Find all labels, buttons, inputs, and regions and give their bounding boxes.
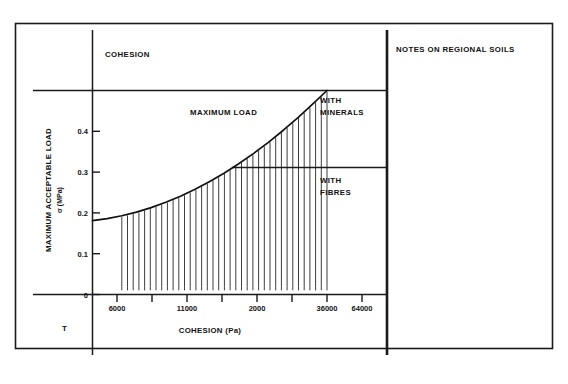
y-tick-label-1: 0.1 <box>78 250 88 259</box>
notes-panel-heading: NOTES ON REGIONAL SOILS <box>396 45 515 54</box>
x-axis-title: COHESION (Pa) <box>179 326 241 335</box>
soil-load-cohesion-figure: 0 0.1 0.2 0.3 0.4 6000 11000 2000 36000 … <box>0 0 568 384</box>
y-axis-title: MAXIMUM ACCEPTABLE LOAD <box>44 128 53 252</box>
band-label-fibres-line2: FIBRES <box>320 188 351 197</box>
page-background <box>0 0 568 384</box>
y-axis-units: σ (MPa) <box>56 187 64 213</box>
chart-heading-cohesion: COHESION <box>105 50 150 59</box>
y-tick-label-2: 0.2 <box>78 209 88 218</box>
band-label-minerals-line2: MINERALS <box>320 108 364 117</box>
band-label-minerals-line1: WITH <box>320 96 342 105</box>
x-tick-label-3: 36000 <box>317 304 338 313</box>
figure-page: 0 0.1 0.2 0.3 0.4 6000 11000 2000 36000 … <box>0 0 568 384</box>
x-tick-label-4: 64000 <box>352 304 373 313</box>
y-tick-label-4: 0.4 <box>78 127 89 136</box>
maximum-load-annotation: MAXIMUM LOAD <box>190 108 257 117</box>
x-tick-label-2: 2000 <box>249 304 266 313</box>
y-tick-label-3: 0.3 <box>78 168 88 177</box>
corner-mark-t: T <box>62 324 67 333</box>
x-tick-label-0: 6000 <box>109 304 126 313</box>
x-tick-label-1: 11000 <box>177 304 197 313</box>
band-label-fibres-line1: WITH <box>320 176 342 185</box>
y-tick-label-0: 0 <box>84 291 88 300</box>
